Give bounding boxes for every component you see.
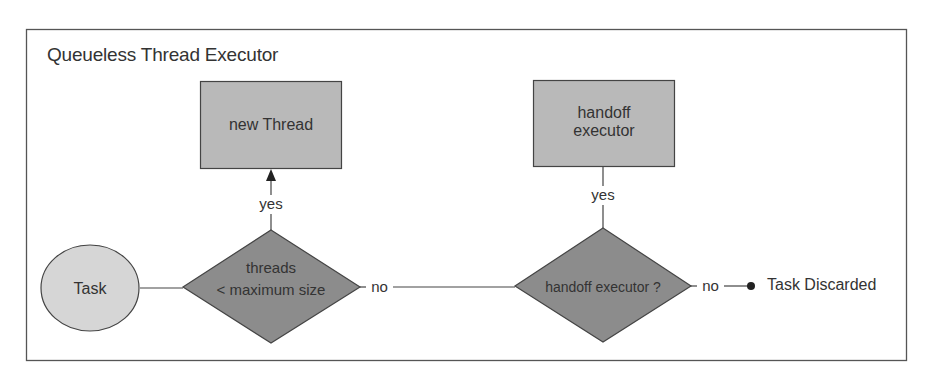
new-thread-label: new Thread	[200, 116, 342, 134]
handoff-executor-line2: executor	[533, 122, 675, 140]
handoff-no-label: no	[697, 277, 724, 295]
terminal-dot-icon	[747, 282, 755, 290]
handoff-executor-label: handoff executor	[533, 104, 675, 140]
threads-decision-line1: threads	[191, 259, 351, 277]
task-label: Task	[41, 280, 139, 298]
diagram-title: Queueless Thread Executor	[47, 44, 278, 66]
handoff-yes-label: yes	[588, 186, 618, 204]
task-discarded-label: Task Discarded	[767, 276, 876, 294]
diagram-frame	[27, 30, 907, 361]
threads-no-label: no	[366, 278, 393, 296]
threads-decision-label: threads < maximum size	[191, 259, 351, 299]
handoff-executor-line1: handoff	[533, 104, 675, 122]
threads-yes-label: yes	[256, 195, 286, 213]
handoff-decision-label: handoff executor ?	[523, 278, 683, 296]
threads-decision-line2: < maximum size	[191, 281, 351, 299]
